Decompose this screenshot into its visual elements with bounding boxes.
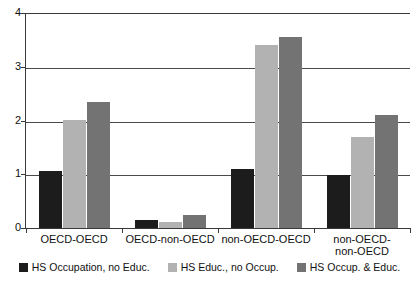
- bar-group: [122, 13, 218, 228]
- legend-entry[interactable]: HS Educ., no Occup.: [168, 262, 279, 273]
- legend-entry[interactable]: HS Occup. & Educ.: [297, 262, 400, 273]
- x-axis-category-label: non-OECD-OECD: [218, 233, 314, 257]
- legend-swatch-icon: [19, 263, 28, 272]
- bar[interactable]: [375, 115, 398, 228]
- bar[interactable]: [87, 102, 110, 228]
- bar-group: [218, 13, 314, 228]
- x-axis-category-label: OECD-OECD: [26, 233, 122, 257]
- bar[interactable]: [351, 137, 374, 228]
- bar[interactable]: [135, 220, 158, 228]
- bar[interactable]: [231, 169, 254, 228]
- x-axis-tick-mark: [410, 228, 411, 233]
- bar-group: [314, 13, 410, 228]
- x-axis-category-labels: OECD-OECDOECD-non-OECDnon-OECD-OECDnon-O…: [26, 233, 410, 257]
- bar[interactable]: [39, 171, 62, 229]
- x-axis-category-label: OECD-non-OECD: [122, 233, 218, 257]
- legend-entry[interactable]: HS Occupation, no Educ.: [19, 262, 150, 273]
- bar[interactable]: [183, 215, 206, 228]
- x-axis-category-label: non-OECD- non-OECD: [314, 233, 410, 257]
- chart-legend: HS Occupation, no Educ.HS Educ., no Occu…: [0, 262, 419, 273]
- bar[interactable]: [279, 37, 302, 228]
- bar[interactable]: [63, 120, 86, 228]
- legend-swatch-icon: [168, 263, 177, 272]
- legend-swatch-icon: [297, 263, 306, 272]
- legend-label: HS Occup. & Educ.: [310, 262, 400, 273]
- bar[interactable]: [255, 45, 278, 228]
- legend-label: HS Educ., no Occup.: [181, 262, 279, 273]
- bar-groups: [26, 13, 410, 228]
- bar-chart-figure: 01234 OECD-OECDOECD-non-OECDnon-OECD-OEC…: [0, 0, 419, 288]
- y-axis: 01234: [0, 13, 21, 228]
- bar-group: [26, 13, 122, 228]
- bar[interactable]: [327, 175, 350, 228]
- legend-label: HS Occupation, no Educ.: [32, 262, 150, 273]
